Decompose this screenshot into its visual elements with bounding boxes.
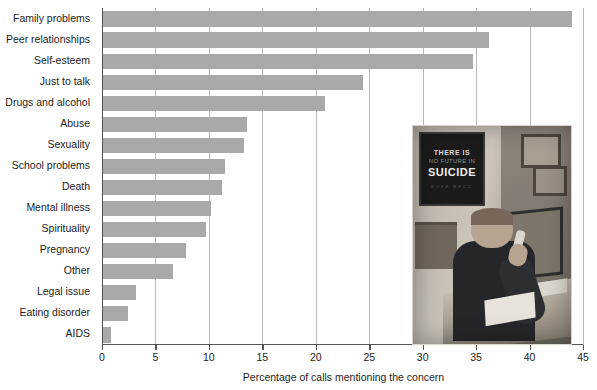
- category-label: Drugs and alcohol: [0, 97, 90, 108]
- category-label: Spirituality: [0, 223, 90, 234]
- category-label: Family problems: [0, 13, 90, 24]
- x-axis-title: Percentage of calls mentioning the conce…: [0, 371, 597, 383]
- tick-label: 45: [577, 351, 589, 363]
- category-label: Death: [0, 181, 90, 192]
- category-label: Legal issue: [0, 286, 90, 297]
- category-label: School problems: [0, 160, 90, 171]
- tick-mark: [369, 345, 370, 350]
- category-label: Pregnancy: [0, 244, 90, 255]
- category-label: Eating disorder: [0, 307, 90, 318]
- tick-label: 30: [417, 351, 429, 363]
- x-axis-title-text: Percentage of calls mentioning the conce…: [153, 371, 444, 383]
- tick-mark: [476, 345, 477, 350]
- tick-label: 0: [99, 351, 105, 363]
- tick-mark: [102, 345, 103, 350]
- tick-label: 35: [470, 351, 482, 363]
- tick-label: 15: [256, 351, 268, 363]
- category-label: Abuse: [0, 118, 90, 129]
- tick-label: 20: [310, 351, 322, 363]
- inset-photo: THERE IS NO FUTURE IN SUICIDE KOFF MPCC: [412, 125, 572, 345]
- category-label: Peer relationships: [0, 34, 90, 45]
- category-label: Mental illness: [0, 202, 90, 213]
- gridline: [583, 8, 584, 345]
- tick-mark: [423, 345, 424, 350]
- tick-mark: [262, 345, 263, 350]
- tick-mark: [583, 345, 584, 350]
- tick-label: 40: [524, 351, 536, 363]
- photo-vignette: [413, 126, 571, 344]
- category-axis-labels: Family problemsPeer relationshipsSelf-es…: [0, 8, 96, 345]
- x-axis-ticks: 051015202530354045: [102, 345, 583, 365]
- tick-mark: [155, 345, 156, 350]
- tick-mark: [316, 345, 317, 350]
- tick-label: 5: [153, 351, 159, 363]
- category-label: Other: [0, 265, 90, 276]
- tick-label: 10: [203, 351, 215, 363]
- category-label: AIDS: [0, 328, 90, 339]
- category-label: Just to talk: [0, 76, 90, 87]
- tick-mark: [530, 345, 531, 350]
- bar-chart: Family problemsPeer relationshipsSelf-es…: [0, 0, 597, 390]
- category-label: Sexuality: [0, 139, 90, 150]
- tick-mark: [209, 345, 210, 350]
- tick-label: 25: [363, 351, 375, 363]
- category-label: Self-esteem: [0, 55, 90, 66]
